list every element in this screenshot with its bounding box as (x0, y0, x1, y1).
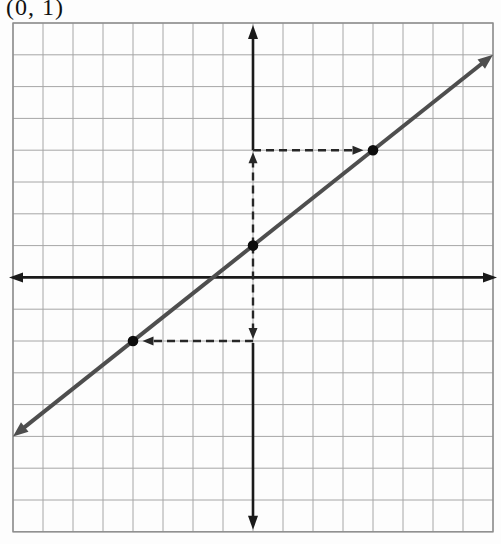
coordinate-plane (0, 0, 501, 544)
y-intercept-label: (0, 1) (6, 0, 64, 21)
graph-figure: (0, 1) (0, 0, 501, 544)
